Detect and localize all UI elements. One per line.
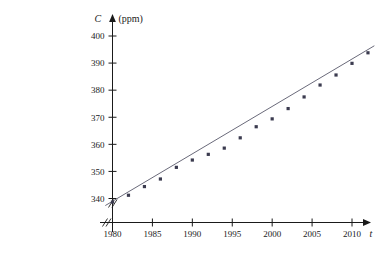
y-tick-label: 340 (91, 194, 105, 204)
trend-line (105, 46, 374, 206)
chart-canvas: 3403503603703803904001980198519901995200… (0, 0, 386, 259)
data-point (143, 185, 146, 188)
y-axis-arrow (109, 14, 116, 22)
y-tick-label: 400 (91, 31, 105, 41)
data-point (366, 51, 369, 54)
data-point (239, 136, 242, 139)
y-axis-unit-label: (ppm) (119, 13, 143, 25)
data-point (175, 166, 178, 169)
data-point (318, 83, 321, 86)
data-point (303, 95, 306, 98)
data-point (334, 73, 337, 76)
data-point (191, 158, 194, 161)
data-point (127, 194, 130, 197)
co2-scatter-figure: 3403503603703803904001980198519901995200… (0, 0, 386, 259)
x-tick-label: 2010 (343, 229, 362, 239)
y-tick-label: 350 (91, 167, 105, 177)
x-tick-label: 1985 (143, 229, 162, 239)
data-point-group (111, 51, 370, 203)
y-tick-label: 360 (91, 140, 105, 150)
y-tick-label: 380 (91, 85, 105, 95)
y-tick-label: 390 (91, 58, 105, 68)
x-tick-label: 1980 (104, 229, 123, 239)
x-tick-label: 1995 (223, 229, 242, 239)
x-tick-label: 2000 (263, 229, 282, 239)
data-point (111, 200, 114, 203)
x-axis-arrow (363, 219, 371, 226)
data-point (207, 153, 210, 156)
y-tick-label: 370 (91, 113, 105, 123)
data-point (255, 125, 258, 128)
data-point (223, 147, 226, 150)
y-axis-label: C (95, 13, 102, 24)
x-axis-label: t (370, 228, 373, 239)
data-point (287, 107, 290, 110)
x-tick-label: 2005 (303, 229, 322, 239)
x-tick-label: 1990 (183, 229, 202, 239)
data-point (159, 177, 162, 180)
data-point (271, 117, 274, 120)
data-point (350, 62, 353, 65)
